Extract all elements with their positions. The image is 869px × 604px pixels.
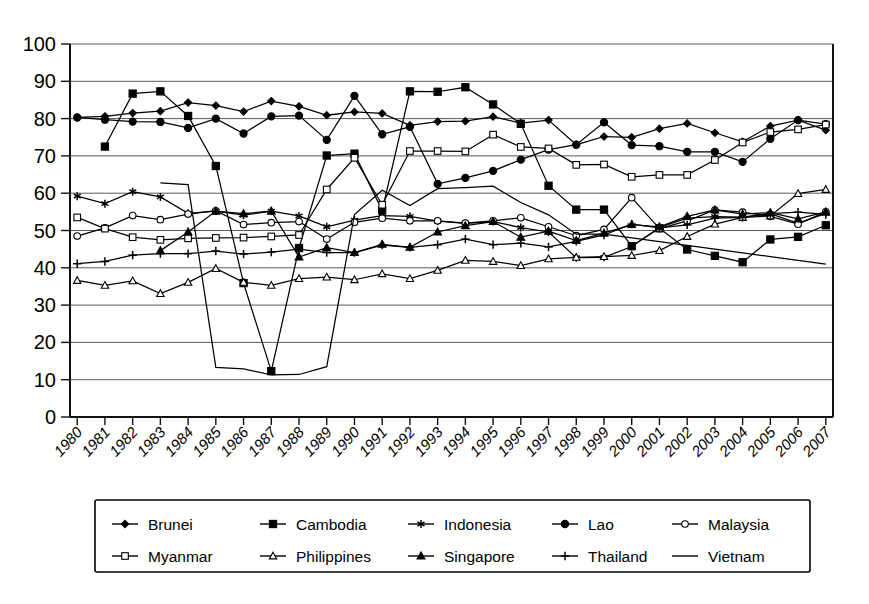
data-point-marker	[129, 234, 136, 241]
y-tick-label: 10	[34, 369, 56, 391]
legend-label: Myanmar	[148, 548, 213, 565]
data-point-marker	[739, 139, 746, 146]
y-tick-label: 70	[34, 145, 56, 167]
data-point-marker	[600, 119, 607, 126]
data-point-marker	[573, 162, 580, 169]
data-point-marker	[268, 368, 275, 375]
data-point-marker	[268, 219, 275, 226]
data-point-marker	[489, 167, 496, 174]
data-point-marker	[74, 233, 81, 240]
data-point-marker	[628, 141, 635, 148]
data-point-marker	[351, 92, 358, 99]
legend-label: Lao	[588, 516, 614, 533]
legend-label: Vietnam	[708, 548, 765, 565]
data-point-marker	[684, 172, 691, 179]
legend-label: Cambodia	[296, 516, 367, 533]
data-point-marker	[296, 232, 303, 239]
data-point-marker	[767, 135, 774, 142]
data-point-marker	[323, 236, 330, 243]
data-point-marker	[212, 115, 219, 122]
data-point-marker	[240, 221, 247, 228]
data-point-marker	[739, 158, 746, 165]
data-point-marker	[822, 121, 829, 128]
data-point-marker	[269, 520, 276, 527]
data-point-marker	[406, 88, 413, 95]
data-point-marker	[185, 211, 192, 218]
data-point-marker	[157, 237, 164, 244]
data-point-marker	[656, 143, 663, 150]
data-point-marker	[795, 126, 802, 133]
data-point-marker	[712, 157, 719, 164]
y-tick-label: 20	[34, 331, 56, 353]
data-point-marker	[122, 553, 129, 560]
data-point-marker	[129, 90, 136, 97]
data-point-marker	[573, 206, 580, 213]
y-tick-label: 0	[45, 406, 56, 428]
data-point-marker	[518, 144, 525, 151]
data-point-marker	[462, 174, 469, 181]
data-point-marker	[434, 88, 441, 95]
data-point-marker	[656, 172, 663, 179]
y-tick-label: 100	[23, 33, 56, 55]
data-point-marker	[129, 212, 136, 219]
data-point-marker	[822, 222, 829, 229]
data-point-marker	[682, 521, 689, 528]
data-point-marker	[268, 233, 275, 240]
data-point-marker	[517, 120, 524, 127]
data-point-marker	[739, 259, 746, 266]
data-point-marker	[157, 88, 164, 95]
data-point-marker	[767, 236, 774, 243]
legend-label: Singapore	[444, 548, 515, 565]
legend-label: Philippines	[296, 548, 371, 565]
data-point-marker	[157, 118, 164, 125]
data-point-marker	[185, 112, 192, 119]
data-point-marker	[711, 252, 718, 259]
data-point-marker	[434, 180, 441, 187]
y-tick-label: 40	[34, 257, 56, 279]
data-point-marker	[296, 218, 303, 225]
data-point-marker	[240, 234, 247, 241]
data-point-marker	[185, 235, 192, 242]
data-point-marker	[490, 131, 497, 138]
data-point-marker	[684, 246, 691, 253]
line-chart-figure: 0102030405060708090100 19801981198219831…	[0, 0, 869, 604]
data-point-marker	[213, 235, 220, 242]
data-point-marker	[323, 152, 330, 159]
data-point-marker	[212, 162, 219, 169]
data-point-marker	[601, 161, 608, 168]
legend-label: Thailand	[588, 548, 647, 565]
data-point-marker	[74, 114, 81, 121]
y-tick-label: 50	[34, 220, 56, 242]
legend-label: Brunei	[148, 516, 193, 533]
data-point-marker	[462, 148, 469, 155]
y-tick-label: 60	[34, 182, 56, 204]
data-point-marker	[74, 214, 81, 221]
data-point-marker	[561, 520, 568, 527]
data-point-marker	[434, 218, 441, 225]
data-point-marker	[379, 215, 386, 222]
data-point-marker	[407, 218, 414, 225]
data-point-marker	[489, 101, 496, 108]
data-point-marker	[295, 112, 302, 119]
data-point-marker	[157, 216, 164, 223]
chart-canvas: 0102030405060708090100 19801981198219831…	[0, 0, 869, 604]
data-point-marker	[268, 113, 275, 120]
data-point-marker	[406, 123, 413, 130]
data-point-marker	[379, 131, 386, 138]
data-point-marker	[545, 145, 552, 152]
data-point-marker	[462, 84, 469, 91]
data-point-marker	[794, 116, 801, 123]
data-point-marker	[573, 141, 580, 148]
data-point-marker	[101, 116, 108, 123]
data-point-marker	[379, 201, 386, 208]
data-point-marker	[129, 118, 136, 125]
data-point-marker	[628, 173, 635, 180]
y-tick-label: 80	[34, 108, 56, 130]
data-point-marker	[517, 156, 524, 163]
data-point-marker	[628, 194, 635, 201]
data-point-marker	[434, 148, 441, 155]
y-tick-label: 90	[34, 70, 56, 92]
data-point-marker	[600, 206, 607, 213]
data-point-marker	[351, 154, 358, 161]
data-point-marker	[794, 233, 801, 240]
